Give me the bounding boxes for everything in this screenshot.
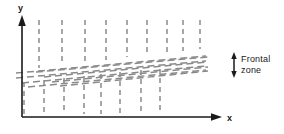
y-axis-label: y bbox=[18, 3, 23, 13]
frontal-zone-label-line2: zone bbox=[241, 65, 261, 75]
frontal-zone-extent-arrow bbox=[231, 52, 236, 78]
frontal-zone-diagonal-line-4 bbox=[28, 70, 206, 87]
x-axis-arrowhead bbox=[211, 113, 222, 121]
upper-vertical-dashed-lines bbox=[39, 20, 200, 68]
y-axis-arrowhead bbox=[18, 15, 26, 26]
annotation-arrowhead-up bbox=[231, 52, 236, 59]
figure-container: y x Frontal zone bbox=[0, 0, 284, 134]
x-axis: x bbox=[22, 113, 232, 123]
y-axis: y bbox=[18, 3, 26, 117]
frontal-zone-label-line1: Frontal bbox=[241, 54, 270, 64]
frontal-zone-diagonal-lines bbox=[16, 56, 208, 87]
x-axis-label: x bbox=[227, 113, 232, 123]
annotation-arrowhead-down bbox=[231, 71, 236, 78]
